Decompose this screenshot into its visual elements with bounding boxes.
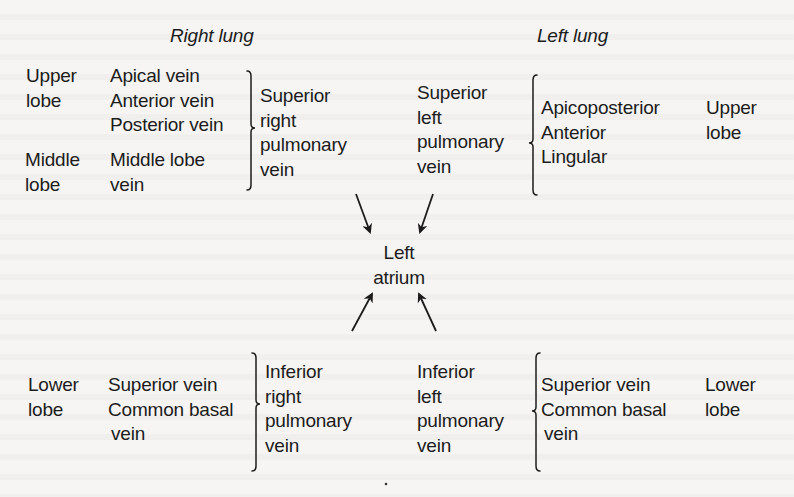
brace-right-superior [247,71,255,190]
brace-right-inferior [252,353,260,471]
diagram-lines [0,0,794,497]
arrow-superior-right-to-atrium [356,194,370,232]
speck [385,483,388,486]
brace-left-superior [529,75,537,195]
arrow-superior-left-to-atrium [420,194,433,232]
arrow-inferior-right-to-atrium [352,294,372,331]
arrow-inferior-left-to-atrium [419,294,436,331]
brace-left-inferior [532,353,540,471]
